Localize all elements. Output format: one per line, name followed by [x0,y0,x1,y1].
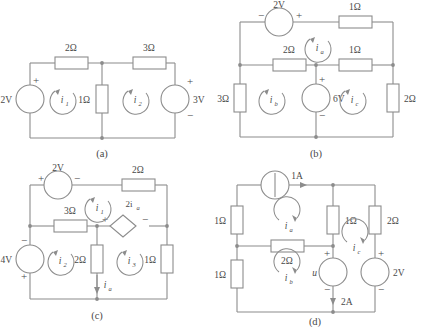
dependent-source-2ia-subscript: a [136,204,139,211]
source-3v-right: + 3V − [161,75,205,121]
dependent-source-2ia-minus: − [142,213,148,225]
source-2v-top-plus: + [38,172,44,184]
mesh-current-ia-subscript: a [320,48,323,55]
circuit-d-caption: (d) [309,316,322,327]
source-2v-right: + 2V − [361,247,405,295]
resistor-3ohm-top-right: 3Ω [133,43,166,69]
mesh-current-ic-symbol: i [353,243,356,253]
junction-node-left [28,224,32,228]
source-2v-top-minus: − [74,172,80,184]
resistor-1ohm-mid-right: 1Ω [339,45,372,71]
mesh-current-i2: i 2 [48,250,74,275]
mesh-current-ib: i b [274,249,300,285]
mesh-current-ic-symbol: i [351,95,354,105]
source-4v-plus: + [21,270,27,282]
source-2v-top-label: 2V [52,163,64,173]
source-2v-right-minus: − [378,283,384,295]
mesh-current-ib-subscript: b [274,100,278,107]
resistor-2ohm-top-left: 2Ω [55,43,88,69]
resistor-1ohm-lower-left-label: 1Ω [214,270,226,280]
dependent-source-2ia: 2i a + − [102,199,148,237]
resistor-2ohm-middle: 2Ω [271,240,304,266]
mesh-current-ib: i b [259,89,285,114]
branch-current-ia-symbol: i [104,280,107,290]
circuit-diagram-a: 2Ω 3Ω 1Ω + 2V + 3V − [0,0,211,165]
resistor-1ohm-lower-left: 1Ω [214,260,243,288]
junction-node-right [391,63,395,67]
resistor-2ohm-right: 2Ω [387,84,416,112]
junction-node-top [331,183,335,187]
resistor-1ohm-middle: 1Ω [78,85,108,113]
resistor-1ohm-mid-right-label: 1Ω [349,45,361,55]
source-4v-minus: − [21,234,27,246]
source-4v-left: − 4V + [0,234,44,282]
mesh-current-i3: i 3 [117,250,143,275]
mesh-current-ib-symbol: i [285,273,288,283]
source-3v-right-label: 3V [193,95,205,105]
junction-node-bottom [95,297,99,301]
resistor-2ohm-right-label: 2Ω [387,216,399,226]
junction-node-bottom [100,136,104,140]
mesh-current-i1: i 1 [85,197,111,222]
mesh-current-i2-symbol: i [134,95,137,105]
junction-node-left [235,244,239,248]
mesh-current-ia-symbol: i [285,221,288,231]
resistor-3ohm-left-label: 3Ω [217,94,229,104]
source-2v-left-label: 2V [0,95,12,105]
mesh-current-ia: i a [305,37,331,62]
source-6v-plus: + [319,73,325,85]
resistor-2ohm-top-left-label: 2Ω [65,43,77,53]
mesh-current-i1-subscript: 1 [100,208,103,215]
circuit-d-svg: 1A 1Ω 1Ω 2Ω 1Ω [215,162,421,327]
current-2a-text: 2A [341,297,353,307]
resistor-2ohm-right-label: 2Ω [404,94,416,104]
source-2v-right-label: 2V [393,268,405,278]
mesh-current-i2: i 2 [123,89,149,114]
source-u-label: u [312,268,317,278]
resistor-2ohm-middle-label: 2Ω [281,256,293,266]
resistor-1ohm-upper-left-label: 1Ω [214,216,226,226]
circuit-a-svg: 2Ω 3Ω 1Ω + 2V + 3V − [0,0,211,165]
source-1a-top: 1A [261,171,307,199]
junction-node-center [331,244,335,248]
source-6v-minus: − [319,109,325,121]
mesh-current-ia-subscript: a [289,226,292,233]
junction-node-center [95,224,99,228]
mesh-current-ia-symbol: i [316,43,319,53]
resistor-2ohm-top-right: 2Ω [122,165,155,191]
source-2v-top-minus: − [258,9,264,21]
source-2v-top-label: 2V [273,0,285,10]
mesh-current-i2-subscript: 2 [138,100,142,107]
resistor-1ohm-right-label: 1Ω [144,255,156,265]
resistor-1ohm-top-right: 1Ω [339,2,372,28]
mesh-current-i3-symbol: i [128,256,131,266]
resistor-2ohm-right: 2Ω [369,206,399,234]
figure-sheet: 2Ω 3Ω 1Ω + 2V + 3V − [0,0,421,327]
resistor-2ohm-mid-left-label: 2Ω [283,45,295,55]
junction-node-right [165,224,169,228]
junction-node-left [238,63,242,67]
source-2v-left: + 2V [0,74,44,113]
dependent-source-2ia-label: 2i [125,199,133,209]
source-6v-label: 6V [333,94,345,104]
circuit-b-caption: (b) [310,148,323,160]
circuit-diagram-b: 2V − + 1Ω 2Ω 1Ω 3Ω [211,0,421,165]
mesh-current-ib-symbol: i [270,95,273,105]
source-2v-top: 2V − + [258,0,302,36]
junction-node-top [100,61,104,65]
mesh-current-ia: i a [274,197,300,233]
resistor-3ohm-middle-left: 3Ω [54,206,87,232]
junction-node-bottom [331,310,335,314]
resistor-1ohm-top-right-label: 1Ω [349,2,361,12]
source-4v-label: 4V [0,255,12,265]
circuit-b-wires [240,22,393,137]
mesh-current-i3-subscript: 3 [131,261,136,268]
mesh-current-ic-subscript: c [356,100,359,107]
circuit-c-wires [30,185,167,299]
resistor-3ohm-top-right-label: 3Ω [143,43,155,53]
source-3v-right-minus: − [187,109,193,121]
source-2v-left-plus: + [33,74,39,86]
circuit-diagram-d: 1A 1Ω 1Ω 2Ω 1Ω [215,162,421,327]
branch-current-ia: i a [94,275,112,294]
source-2v-right-plus: + [378,247,384,259]
